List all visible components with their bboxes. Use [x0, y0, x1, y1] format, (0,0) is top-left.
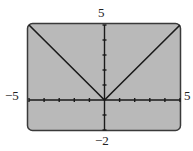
graph-screen: [0, 0, 193, 151]
xmin-label: −5: [5, 89, 19, 102]
ymax-label: 5: [98, 6, 105, 19]
ymin-label: −2: [95, 134, 109, 147]
xmax-label: 5: [184, 89, 191, 102]
